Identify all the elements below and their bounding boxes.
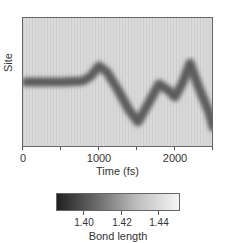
x-tick-label: 1000 bbox=[87, 152, 111, 164]
colorbar bbox=[56, 193, 180, 211]
colorbar-tick bbox=[121, 211, 122, 215]
colorbar-tick bbox=[83, 211, 84, 215]
y-axis-label: Site bbox=[2, 42, 14, 72]
heatmap-plot-area bbox=[22, 17, 213, 147]
x-tick bbox=[174, 147, 175, 150]
colorbar-tick-label: 1.44 bbox=[149, 217, 168, 228]
colorbar-tick bbox=[158, 211, 159, 215]
x-tick bbox=[136, 147, 137, 150]
x-axis-label: Time (fs) bbox=[0, 165, 225, 177]
colorbar-tick-label: 1.42 bbox=[112, 217, 131, 228]
colorbar-tick-label: 1.40 bbox=[74, 217, 93, 228]
x-tick-label: 0 bbox=[20, 152, 26, 164]
heatmap-image bbox=[23, 18, 213, 147]
x-tick-label: 2000 bbox=[163, 152, 187, 164]
x-tick bbox=[22, 147, 23, 150]
colorbar-label: Bond length bbox=[56, 230, 180, 242]
x-tick bbox=[212, 147, 213, 150]
x-tick bbox=[98, 147, 99, 150]
x-tick bbox=[60, 147, 61, 150]
